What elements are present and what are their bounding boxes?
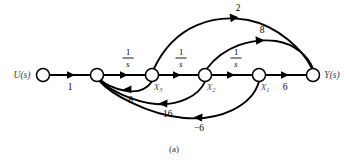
label-node-x1: X1: [260, 82, 270, 93]
gain-label-x2-to-y: 8: [260, 25, 265, 35]
arrowhead-x2-to-node2-arc: [158, 100, 167, 108]
arrowhead-x2-to-x1: [227, 71, 235, 79]
arrowhead-node2-to-x3: [120, 71, 128, 79]
arrowhead-x3-to-y-arc: [230, 14, 239, 23]
gain-label-node2-to-x3-numerator: 1: [126, 47, 130, 57]
label-node-x3-sub: 3: [158, 86, 163, 93]
gain-label-x1-to-y: 6: [283, 82, 288, 92]
label-input-us: U(s): [14, 70, 31, 81]
edge-x2-to-node2-arc: [100, 81, 205, 105]
label-node-x2-sub: 2: [212, 86, 216, 93]
figure-caption: (a): [169, 144, 179, 154]
arrowhead-x2-to-y-arc: [256, 36, 265, 45]
edge-x2-to-y-arc: [207, 40, 313, 68]
gain-label-x3-to-x2: 1 s: [176, 47, 187, 69]
gain-label-x2-to-x1-numerator: 1: [234, 47, 238, 57]
gain-label-x3-to-x2-denominator: s: [179, 59, 183, 69]
node-x2: [199, 69, 212, 82]
node-y: [307, 69, 320, 82]
arrowhead-x3-to-x2: [173, 71, 181, 79]
gain-label-node2-to-x3: 1 s: [123, 47, 134, 69]
node-x1: [253, 69, 266, 82]
gain-label-x2-to-x1: 1 s: [231, 47, 242, 69]
arrowhead-x1-to-y: [281, 71, 289, 79]
gain-label-u-to-node2: 1: [68, 82, 73, 92]
signal-flow-graph-figure: U(s) Y(s) X3 X2 X1 1 1 s 1 s 1 s 6 2: [0, 0, 349, 163]
label-node-x2: X2: [206, 82, 217, 93]
arrowhead-x3-to-node2-arc: [123, 86, 132, 94]
gain-label-x2-to-x1-denominator: s: [234, 59, 238, 69]
node-summing: [91, 69, 104, 82]
arrowhead-u-to-node2: [67, 71, 75, 79]
node-x3: [146, 69, 159, 82]
label-node-x3: X3: [153, 82, 164, 93]
gain-label-x3-to-y: 2: [236, 3, 241, 13]
gain-label-x3-to-node2: −8: [123, 95, 133, 105]
gain-label-x1-to-node2: −6: [194, 123, 204, 133]
label-node-x1-sub: 1: [266, 86, 269, 93]
gain-label-x2-to-node2: −16: [158, 109, 173, 119]
forward-path-edges: [50, 71, 307, 79]
arrowhead-x1-to-node2-arc: [193, 114, 202, 122]
label-output-ys: Y(s): [324, 70, 339, 81]
signal-flow-graph-canvas: U(s) Y(s) X3 X2 X1 1 1 s 1 s 1 s 6 2: [0, 0, 349, 163]
gain-label-x3-to-x2-numerator: 1: [179, 47, 183, 57]
gain-label-node2-to-x3-denominator: s: [126, 59, 130, 69]
node-u: [37, 69, 50, 82]
